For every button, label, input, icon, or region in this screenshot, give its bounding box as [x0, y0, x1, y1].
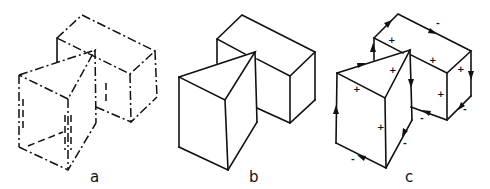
box-top-b: [217, 15, 315, 76]
figure-stage: a b +: [0, 0, 490, 189]
prism-bottom-a: [19, 123, 96, 170]
panel-b: b: [179, 15, 315, 186]
arrow-up-icon: [333, 105, 339, 114]
face-sign: +: [429, 55, 437, 65]
prism-bottom-c: [336, 120, 412, 168]
arrow-down-icon: [468, 71, 474, 80]
prism-hidden-bottom-a: [28, 132, 63, 146]
panel-c: + + + + + + + - - - - - c: [333, 14, 474, 186]
edge-sign: -: [463, 104, 467, 114]
edge-sign: -: [351, 154, 355, 164]
box-bottom-a: [96, 97, 157, 122]
face-sign: +: [377, 122, 385, 132]
prism-right-edge-b: [255, 52, 257, 122]
face-sign: +: [388, 35, 396, 45]
prism-front-edge-c: [385, 98, 386, 168]
prism-bottom-b: [179, 122, 257, 170]
figure-svg: a b +: [0, 0, 490, 189]
face-sign: +: [353, 84, 361, 94]
edge-sign: -: [420, 113, 424, 123]
label-c: c: [405, 168, 413, 186]
prism-right-edge-a: [95, 50, 96, 123]
edge-sign: -: [436, 18, 440, 28]
box-front-edge-a: [130, 74, 131, 122]
panel-a: a: [19, 15, 157, 186]
box-bottom-b: [257, 100, 315, 123]
box-right-edge-a: [155, 51, 157, 97]
arrow-down-right-icon: [428, 28, 437, 34]
box-top-inner-b: [217, 39, 245, 54]
label-b: b: [249, 168, 259, 186]
arrow-up-left-icon: [357, 155, 366, 161]
arrow-down-icon: [408, 79, 414, 88]
box-top-face-a: [57, 15, 155, 74]
label-a: a: [90, 168, 99, 186]
edge-sign: -: [403, 138, 407, 148]
face-sign: +: [437, 89, 445, 99]
prism-front-edge-b: [225, 100, 228, 170]
arrow-up-icon: [370, 43, 376, 52]
arrow-right-icon: [357, 63, 366, 68]
face-sign: +: [457, 64, 465, 74]
face-sign: +: [389, 65, 397, 75]
